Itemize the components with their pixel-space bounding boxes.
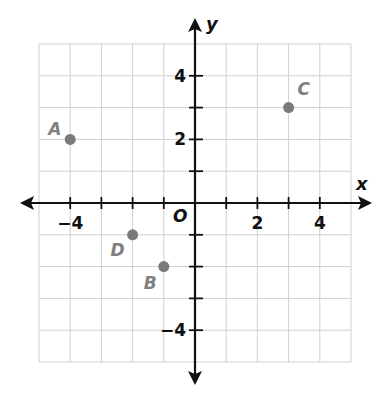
point-label: C: [298, 79, 311, 99]
x-tick-label: 4: [314, 213, 326, 233]
point-marker: [127, 229, 138, 240]
point-label: B: [144, 273, 157, 293]
x-tick-label: −4: [57, 213, 83, 233]
y-axis-label: y: [206, 13, 219, 34]
point-label: A: [46, 119, 61, 139]
point-marker: [158, 261, 169, 272]
origin-label: O: [173, 206, 187, 226]
y-tick-label: −4: [160, 320, 186, 340]
point-a: A: [46, 119, 75, 145]
point-label: D: [111, 240, 125, 260]
x-tick-label: 2: [251, 213, 263, 233]
point-marker: [65, 134, 76, 145]
point-marker: [283, 102, 294, 113]
point-d: D: [111, 229, 139, 259]
coordinate-plane: −42442−4 x y O ABCD: [0, 0, 386, 402]
x-axis-label: x: [355, 173, 369, 194]
y-tick-label: 2: [174, 129, 186, 149]
point-b: B: [144, 261, 170, 293]
data-points: ABCD: [46, 79, 310, 293]
y-tick-label: 4: [174, 66, 186, 86]
